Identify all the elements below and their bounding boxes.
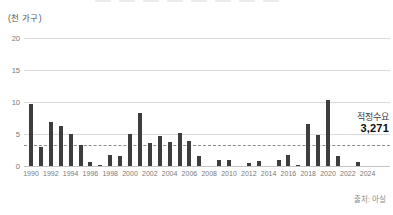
- bar-1992: [49, 122, 53, 166]
- target-demand-annotation: 적정수요 3,271: [353, 112, 390, 136]
- bar-2000: [128, 134, 132, 166]
- bar-2018: [306, 124, 310, 166]
- bar-2009: [217, 160, 221, 166]
- bar-1998: [108, 155, 112, 166]
- target-demand-label: 적정수요: [357, 112, 389, 122]
- bar-2019: [316, 135, 320, 166]
- bar-1997: [98, 165, 102, 166]
- bar-1990: [29, 104, 33, 166]
- source-credit: 출처: 아실: [354, 193, 386, 204]
- bar-2020: [326, 100, 330, 166]
- gridline-15: [24, 70, 390, 71]
- bar-1995: [79, 145, 83, 166]
- bar-2023: [356, 162, 360, 166]
- bar-2003: [158, 136, 162, 166]
- bar-2010: [227, 160, 231, 166]
- y-axis-unit-label: (천 가구): [8, 11, 42, 23]
- bar-1994: [69, 134, 73, 166]
- bar-2016: [286, 155, 290, 166]
- bar-2004: [168, 142, 172, 166]
- bar-2012: [247, 163, 251, 166]
- gridline-5: [24, 134, 390, 135]
- y-tick-label-5: 5: [2, 130, 20, 139]
- y-tick-label-10: 10: [2, 98, 20, 107]
- cropped-chart-title: [95, 0, 281, 2]
- bar-2001: [138, 113, 142, 166]
- x-axis-line: [24, 166, 390, 167]
- y-tick-label-20: 20: [2, 34, 20, 43]
- bar-2015: [277, 160, 281, 166]
- bar-1991: [39, 147, 43, 166]
- bar-2007: [197, 156, 201, 166]
- bar-2002: [148, 143, 152, 166]
- bar-2005: [178, 133, 182, 166]
- bar-chart-plot-area: 적정수요 3,271 05101520199019921994199619982…: [24, 38, 390, 166]
- x-tick-label-2024: 2024: [354, 170, 382, 177]
- bar-2017: [296, 165, 300, 166]
- bar-2006: [187, 141, 191, 166]
- bar-2021: [336, 156, 340, 166]
- gridline-10: [24, 102, 390, 103]
- y-tick-label-15: 15: [2, 66, 20, 75]
- bar-1996: [88, 162, 92, 166]
- gridline-20: [24, 38, 390, 39]
- bar-1993: [59, 126, 63, 166]
- chart-page: { "unit_label": "(천 가구)", "annotation": …: [0, 0, 393, 215]
- bar-2013: [257, 161, 261, 166]
- bar-1999: [118, 156, 122, 166]
